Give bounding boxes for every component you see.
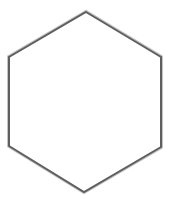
hexagon-outline: [9, 12, 161, 192]
hexagon-diagram: [0, 0, 174, 199]
